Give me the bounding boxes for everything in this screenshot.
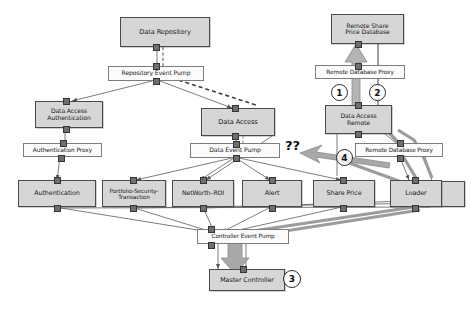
step-number-label: 3 — [289, 274, 295, 284]
port-icon — [130, 177, 137, 184]
port-icon — [355, 41, 362, 48]
port-icon — [208, 242, 215, 249]
port-icon — [340, 177, 347, 184]
node-label: Data Access Authentication — [45, 108, 92, 121]
port-icon — [355, 131, 362, 138]
node-networth-roi[interactable]: NetWorth–ROI — [172, 180, 234, 207]
step-number-1: 1 — [331, 84, 348, 101]
port-icon — [63, 126, 70, 133]
port-icon — [54, 177, 61, 184]
node-label: Controller Event Pump — [209, 233, 276, 239]
port-icon — [412, 205, 419, 212]
port-icon — [130, 205, 137, 212]
node-alert[interactable]: Alert — [242, 180, 302, 207]
node-master-controller[interactable]: Master Controller — [209, 269, 285, 291]
node-label: Remote Database Proxy — [363, 147, 435, 153]
port-icon — [397, 155, 404, 162]
node-label: NetWorth–ROI — [180, 190, 226, 197]
architecture-diagram-canvas: Data Repository Repository Event Pump Da… — [0, 0, 471, 309]
node-label: Master Controller — [218, 277, 276, 284]
step-number-label: 4 — [341, 153, 347, 163]
node-label: Data Access Remote — [338, 113, 378, 126]
step-number-2: 2 — [369, 84, 386, 101]
port-icon — [153, 78, 160, 85]
node-data-repository[interactable]: Data Repository — [120, 17, 210, 47]
port-icon — [153, 44, 160, 51]
node-label: Remote Share Price Database — [343, 23, 391, 36]
port-icon — [269, 177, 276, 184]
port-icon — [208, 226, 215, 233]
node-label: Repository Event Pump — [120, 70, 193, 76]
port-icon — [412, 177, 419, 184]
step-number-4: 4 — [336, 149, 353, 166]
step-number-label: 2 — [374, 88, 380, 98]
port-icon — [240, 266, 247, 273]
node-label: Alert — [263, 190, 282, 197]
node-label: Loader — [403, 190, 428, 197]
port-icon — [200, 205, 207, 212]
node-portfolio-security-transaction[interactable]: Portfolio-Security- Transaction — [102, 180, 166, 207]
node-data-access-remote[interactable]: Data Access Remote — [325, 105, 392, 134]
port-icon — [232, 105, 239, 112]
node-data-access[interactable]: Data Access — [201, 108, 275, 136]
node-label: Data Repository — [137, 29, 192, 36]
step-number-label: 1 — [336, 88, 342, 98]
port-icon — [54, 205, 61, 212]
port-icon — [60, 140, 67, 147]
port-icon — [269, 205, 276, 212]
port-icon — [397, 140, 404, 147]
port-icon — [355, 63, 362, 70]
step-number-3: 3 — [283, 270, 301, 288]
node-label: Data Event Pump — [207, 147, 263, 153]
port-icon — [233, 141, 240, 148]
port-icon — [58, 155, 65, 162]
port-icon — [233, 155, 240, 162]
node-label: Data Access — [216, 119, 259, 126]
port-icon — [63, 98, 70, 105]
node-remote-share-price-database[interactable]: Remote Share Price Database — [331, 14, 404, 44]
port-icon — [355, 102, 362, 109]
node-label: Authentication Proxy — [31, 147, 94, 153]
node-label: Share Price — [325, 190, 364, 197]
node-data-access-authentication[interactable]: Data Access Authentication — [35, 101, 103, 128]
node-label: Portfolio-Security- Transaction — [108, 188, 161, 200]
node-share-price[interactable]: Share Price — [313, 180, 375, 207]
node-authentication[interactable]: Authentication — [18, 180, 96, 207]
node-loader[interactable]: Loader — [390, 180, 442, 207]
port-icon — [232, 133, 239, 140]
node-label: Authentication — [32, 190, 82, 197]
port-icon — [200, 177, 207, 184]
port-icon — [153, 63, 160, 70]
port-icon — [340, 205, 347, 212]
question-marks-annotation: ?? — [285, 138, 300, 153]
